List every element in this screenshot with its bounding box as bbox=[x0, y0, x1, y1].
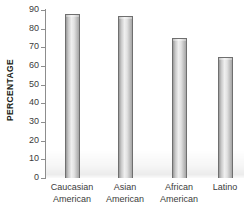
y-tick-label-90: 90 bbox=[29, 4, 39, 15]
bar-asian-american bbox=[118, 16, 133, 178]
x-label-latino: Latino bbox=[187, 182, 247, 194]
y-tick-label-50: 50 bbox=[29, 79, 39, 90]
y-tick-label-80: 80 bbox=[29, 23, 39, 34]
y-tick-label-20: 20 bbox=[29, 135, 39, 146]
x-label-line2: American bbox=[141, 194, 217, 206]
y-tick-label-30: 30 bbox=[29, 116, 39, 127]
y-tick-label-60: 60 bbox=[29, 60, 39, 71]
x-label-line1: Latino bbox=[213, 182, 238, 192]
bar-african-american bbox=[172, 38, 187, 178]
y-tick-label-10: 10 bbox=[29, 153, 39, 164]
x-label-line1: Asian bbox=[114, 182, 137, 192]
plot-area bbox=[45, 10, 247, 178]
y-tick-label-40: 40 bbox=[29, 97, 39, 108]
bar-caucasian-american bbox=[65, 14, 80, 178]
bar-latino bbox=[218, 57, 233, 178]
y-axis-title: PERCENTAGE bbox=[0, 0, 20, 180]
y-axis-title-text: PERCENTAGE bbox=[5, 59, 15, 121]
y-tick-label-70: 70 bbox=[29, 41, 39, 52]
bar-chart: PERCENTAGE 90 80 70 60 50 40 30 20 10 0 bbox=[0, 0, 247, 216]
y-tick-mark-0 bbox=[41, 178, 45, 179]
